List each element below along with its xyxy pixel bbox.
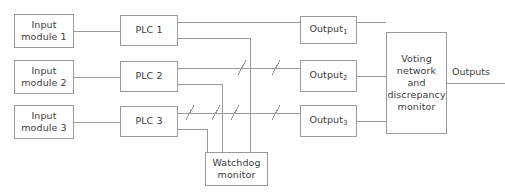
output-3-label: Output3 [307,114,349,128]
plc-1-label: PLC 1 [133,24,164,36]
watchdog-monitor-box[interactable]: Watchdogmonitor [205,152,268,186]
input-module-1-box[interactable]: Inputmodule 1 [14,14,74,48]
input-module-2-label: Inputmodule 2 [19,65,68,89]
input-module-1-label: Inputmodule 1 [19,19,68,43]
watchdog-monitor-label: Watchdogmonitor [210,157,262,181]
output-3-box[interactable]: Output3 [300,105,357,137]
plc-2-box[interactable]: PLC 2 [120,61,178,92]
input-module-3-label: Inputmodule 3 [19,110,68,134]
outputs-terminal-label: Outputs [452,66,490,77]
plc-3-box[interactable]: PLC 3 [120,106,178,137]
output-2-label: Output2 [307,69,349,83]
voting-network-box[interactable]: Votingnetworkanddiscrepancymonitor [386,32,447,134]
plc-3-label: PLC 3 [133,115,164,127]
input-module-3-box[interactable]: Inputmodule 3 [14,105,74,139]
output-1-box[interactable]: Output1 [300,16,357,44]
output-2-box[interactable]: Output2 [300,60,357,92]
voting-network-label: Votingnetworkanddiscrepancymonitor [385,53,447,114]
plc-2-label: PLC 2 [133,70,164,82]
plc-redundancy-diagram: Inputmodule 1 Inputmodule 2 Inputmodule … [0,0,505,196]
input-module-2-box[interactable]: Inputmodule 2 [14,60,74,94]
plc-1-box[interactable]: PLC 1 [120,15,178,46]
output-1-label: Output1 [307,23,349,37]
